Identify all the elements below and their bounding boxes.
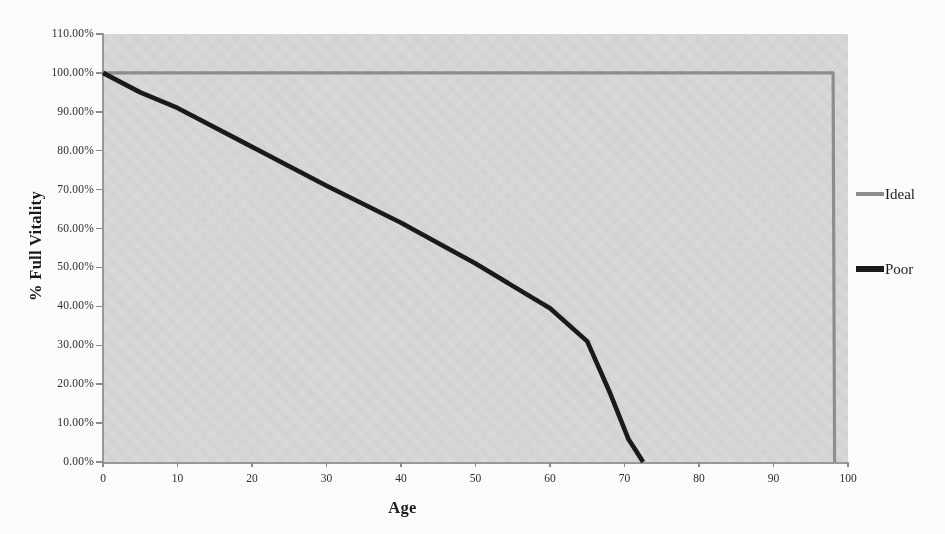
x-axis-title-text: Age: [388, 498, 416, 517]
y-axis-title: % Full Vitality: [26, 166, 46, 326]
legend-item-poor[interactable]: Poor: [856, 260, 945, 278]
legend-label-ideal: Ideal: [884, 186, 915, 202]
series-line-poor: [103, 73, 643, 462]
vitality-vs-age-chart: 0.00%10.00%20.00%30.00%40.00%50.00%60.00…: [0, 0, 945, 534]
chart-legend: Ideal Poor: [856, 185, 945, 335]
legend-swatch-icon-poor: [856, 266, 884, 272]
legend-label-poor: Poor: [884, 261, 913, 277]
legend-item-ideal[interactable]: Ideal: [856, 185, 945, 203]
series-layer: [0, 0, 945, 534]
series-line-ideal: [103, 73, 835, 462]
legend-swatch-icon-ideal: [856, 192, 884, 196]
x-axis-title: Age: [0, 498, 945, 518]
